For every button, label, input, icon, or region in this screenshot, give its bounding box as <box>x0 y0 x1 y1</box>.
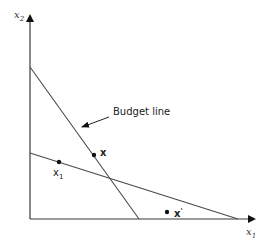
point-x-label: x <box>100 147 107 158</box>
y-axis-label: x2 <box>14 9 25 23</box>
point-x <box>92 153 96 157</box>
point-x-prime-label: x' <box>174 207 183 219</box>
budget-line <box>30 67 139 219</box>
point-x-prime <box>165 210 169 214</box>
budget-line-label: Budget line <box>113 106 170 117</box>
annotation-arrow <box>82 117 109 127</box>
x-axis-label: x1 <box>246 226 256 240</box>
second-line <box>30 153 238 219</box>
point-x1 <box>57 160 61 164</box>
point-x1-label: x1 <box>53 167 63 181</box>
budget-diagram: x2 x1 Budget line x x1 x' <box>0 0 270 252</box>
